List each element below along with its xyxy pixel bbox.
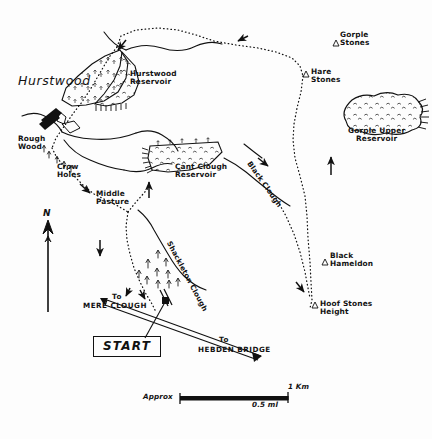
scale-bar-upper-label: 1 Km (288, 383, 309, 391)
reservoir-label-gorple-upper-reservoir: Gorple Upper Reservoir (348, 127, 405, 144)
north-arrow-label: N (43, 208, 51, 218)
place-label-rough-wood: Rough Wood (18, 135, 45, 152)
summit-label-hare-stones: Hare Stones (311, 68, 341, 85)
direction-label-to-hebden-bridge-line1: To (219, 336, 229, 344)
map-canvas (0, 0, 432, 439)
reservoir-label-cant-clough-reservoir: Cant Clough Reservoir (175, 163, 227, 180)
junction-square (162, 297, 169, 304)
arrow-west-top (238, 36, 248, 41)
start-marker-label[interactable]: START (93, 336, 161, 357)
north-arrow (43, 220, 53, 312)
gorple-stones-marker (333, 40, 339, 46)
summit-label-gorple-stones: Gorple Stones (340, 31, 370, 48)
direction-label-to-mere-clough: MERE CLOUGH (83, 302, 147, 310)
place-label-crow-holes: Crow Holes (57, 163, 81, 180)
direction-label-to-hebden-bridge: HEBDEN BRIDGE (198, 346, 271, 354)
summit-label-hoof-stones-height: Hoof Stones Height (320, 300, 372, 317)
scale-bar-prefix: Approx (143, 393, 173, 401)
arrow-down-shackleton (140, 290, 145, 299)
hare-stones-marker (303, 71, 309, 77)
place-label-middle-pasture: Middle Pasture (96, 190, 129, 207)
arrow-down-mere (126, 288, 130, 296)
arrow-black-clough (258, 158, 268, 166)
direction-label-to-mere-clough-line1: To (112, 293, 122, 301)
place-label-hurstwood: Hurstwood (18, 74, 91, 88)
sketch-map: Hurstwood Hurstwood Reservoir Cant Cloug… (0, 0, 432, 439)
arrow-southeast-middle-pasture (80, 184, 90, 193)
reservoir-label-hurstwood-reservoir: Hurstwood Reservoir (130, 70, 177, 87)
black-hameldon-marker (322, 259, 328, 265)
summit-label-black-hameldon: Black Hameldon (330, 252, 373, 269)
scale-bar-lower-label: 0.5 ml (252, 401, 278, 409)
arrow-hoof-stones (296, 282, 304, 292)
hoof-stones-height-marker (312, 302, 318, 308)
